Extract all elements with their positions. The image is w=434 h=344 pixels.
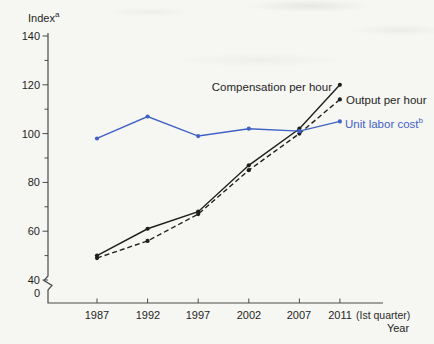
series-label-unit-labor-cost: Unit labor costb: [345, 117, 423, 131]
data-point-0-2011: [338, 83, 342, 87]
data-point-2-2007: [297, 129, 301, 133]
data-point-1-1987: [95, 256, 99, 260]
scanned-chart-page: Indexa 140 120 100 80 60 40 0 1987 1992 …: [0, 0, 434, 344]
series-label-unit-labor-cost-text: Unit labor cost: [345, 118, 419, 130]
x-tick-label: 1987: [75, 308, 119, 322]
x-tick-label: 2002: [227, 308, 271, 322]
y-tick-label: 100: [10, 127, 40, 141]
y-tick-label: 60: [10, 224, 40, 238]
x-axis-note: (Ist quarter): [356, 308, 410, 322]
data-point-2-1992: [146, 114, 150, 118]
data-point-1-1992: [146, 239, 150, 243]
data-point-2-2002: [247, 127, 251, 131]
productivity-line-chart: [0, 0, 434, 344]
axes-with-break: [44, 33, 383, 303]
y-tick-label: 40: [10, 273, 40, 287]
x-tick-label: 1992: [126, 308, 170, 322]
x-tick-label: 1997: [176, 308, 220, 322]
x-axis-title: Year: [376, 321, 420, 335]
y-tick-label: 120: [10, 78, 40, 92]
data-point-2-2011: [338, 119, 342, 123]
data-point-0-1992: [146, 227, 150, 231]
series-label-compensation: Compensation per hour: [210, 80, 332, 94]
footnote-marker-b: b: [419, 116, 423, 125]
series-line-0: [97, 85, 340, 256]
data-point-1-1997: [196, 212, 200, 216]
x-tick-label: 2007: [277, 308, 321, 322]
y-tick-label: 80: [10, 175, 40, 189]
data-point-1-2011: [338, 97, 342, 101]
series-line-2: [97, 117, 340, 139]
data-point-0-2002: [247, 163, 251, 167]
y-tick-label: 140: [10, 29, 40, 43]
y-axis-title-text: Index: [28, 12, 55, 24]
footnote-marker-a: a: [55, 10, 59, 19]
series-label-output: Output per hour: [346, 93, 427, 107]
data-point-2-1997: [196, 134, 200, 138]
data-point-1-2002: [247, 168, 251, 172]
data-point-2-1987: [95, 136, 99, 140]
y-origin-label: 0: [10, 286, 40, 300]
y-axis-title: Indexa: [28, 11, 59, 25]
